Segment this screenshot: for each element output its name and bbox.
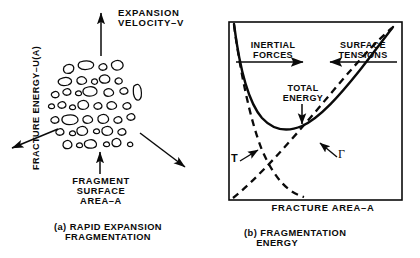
total-energy-label: TOTAL ENERGY bbox=[272, 84, 334, 103]
expansion-arrow-right bbox=[140, 133, 185, 167]
curve-t-leader-arrow bbox=[240, 150, 258, 161]
curve-gamma-label: Γ bbox=[338, 148, 345, 161]
panel-b-caption: (b) FRAGMENTATION ENERGY bbox=[244, 228, 346, 248]
surface-tensions-label: SURFACE TENSIONS bbox=[330, 41, 396, 60]
y-axis-label: FRACTURE ENERGY–U(A) bbox=[32, 25, 42, 191]
fragment-surface-area-label: FRAGMENT SURFACE AREA–A bbox=[56, 176, 146, 206]
curve-t-label: T bbox=[231, 153, 238, 165]
figure-fragmentation: EXPANSION VELOCITY–V FRAGMENT SURFACE AR… bbox=[0, 0, 420, 258]
x-axis-label: FRACTURE AREA–A bbox=[243, 203, 403, 213]
fragment-cloud bbox=[49, 60, 142, 148]
inertial-forces-label: INERTIAL FORCES bbox=[240, 41, 306, 60]
figure-line-art bbox=[0, 0, 420, 258]
expansion-velocity-label: EXPANSION VELOCITY–V bbox=[118, 8, 184, 29]
panel-a-caption: (a) RAPID EXPANSION FRAGMENTATION bbox=[22, 222, 194, 242]
curve-gamma-leader-arrow bbox=[320, 143, 337, 157]
